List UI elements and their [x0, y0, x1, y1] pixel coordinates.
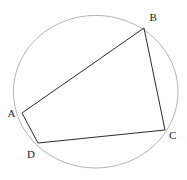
vertex-label-b: B — [150, 11, 157, 23]
inscribed-quadrilateral — [22, 28, 165, 143]
diagram-canvas: A B C D — [0, 0, 187, 180]
geometry-svg: A B C D — [0, 0, 187, 180]
vertex-label-d: D — [27, 148, 35, 160]
vertex-label-c: C — [169, 129, 176, 141]
vertex-label-a: A — [8, 107, 16, 119]
circumscribed-circle — [13, 15, 178, 168]
